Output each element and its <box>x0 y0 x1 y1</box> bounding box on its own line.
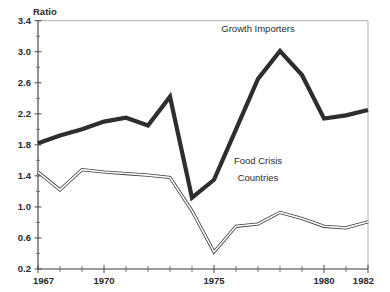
series-annotation-label: Countries <box>238 172 279 183</box>
series-line-food-crisis-inner <box>38 170 368 252</box>
y-tick-label: 2.2 <box>18 108 31 119</box>
y-axis-title: Ratio <box>33 6 57 17</box>
y-tick-label: 1.8 <box>18 139 31 150</box>
y-tick-label: 1.0 <box>18 201 31 212</box>
chart-container: Ratio 0.20.61.01.41.82.22.63.03.4 196719… <box>0 0 390 292</box>
x-axis-tick-labels: 19671970197519801982 <box>33 275 374 286</box>
y-tick-label: 0.6 <box>18 232 31 243</box>
series-line-growth-importers <box>38 51 368 198</box>
series-annotation-label: Food Crisis <box>234 155 282 166</box>
data-series-group <box>38 51 368 252</box>
x-tick-label: 1982 <box>353 275 374 286</box>
y-tick-label: 3.0 <box>18 46 31 57</box>
y-tick-label: 1.4 <box>18 170 32 181</box>
line-chart: Ratio 0.20.61.01.41.82.22.63.03.4 196719… <box>0 0 390 292</box>
series-annotation-label: Growth Importers <box>221 23 295 34</box>
y-tick-label: 2.6 <box>18 77 31 88</box>
x-tick-label: 1967 <box>33 275 54 286</box>
y-tick-label: 0.2 <box>18 263 31 274</box>
y-tick-label: 3.4 <box>18 15 32 26</box>
x-tick-label: 1980 <box>313 275 334 286</box>
series-annotations: Growth ImportersFood CrisisCountries <box>221 23 295 183</box>
series-line-food-crisis-outer <box>38 170 368 252</box>
x-tick-label: 1970 <box>93 275 114 286</box>
x-tick-label: 1975 <box>203 275 225 286</box>
